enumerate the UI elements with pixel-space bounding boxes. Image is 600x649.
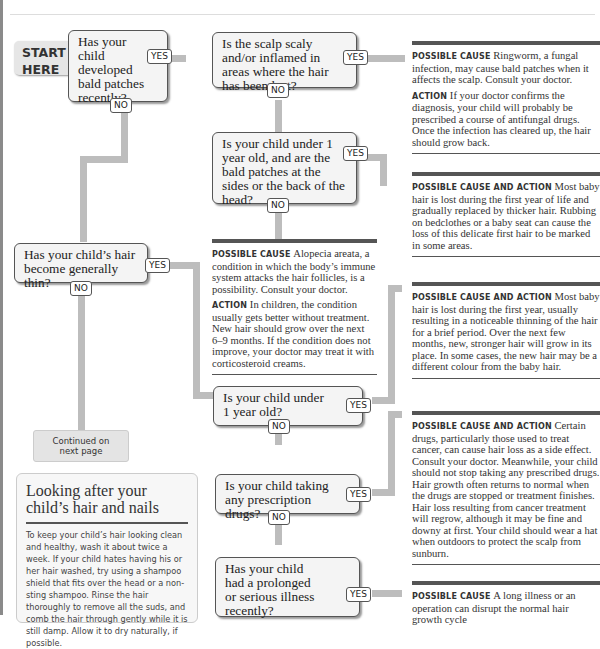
tip-rule	[26, 522, 188, 524]
result-text: Most baby hair is lost during the first …	[412, 291, 600, 372]
result-top-bar	[412, 282, 600, 286]
result-text: Certain drugs, particularly those used t…	[412, 420, 599, 559]
connector	[193, 392, 213, 399]
result-bottom-rule	[412, 378, 600, 379]
result-heading: Possible cause and action	[412, 183, 552, 192]
yes-label[interactable]: YES	[343, 146, 368, 161]
continued-line2: next page	[34, 446, 128, 456]
connector	[193, 262, 200, 397]
result-top-bar	[212, 239, 377, 243]
question-generally-thin[interactable]: Has your child’s hair become generally t…	[14, 243, 148, 283]
yes-label[interactable]: YES	[147, 49, 172, 64]
connector	[388, 411, 402, 418]
connector	[80, 156, 128, 163]
tip-title: Looking after your child’s hair and nail…	[26, 482, 188, 516]
result-heading: Action	[212, 301, 247, 310]
yes-label[interactable]: YES	[343, 50, 368, 65]
result-heading: Possible cause and action	[412, 293, 552, 302]
tip-body: To keep your child’s hair looking clean …	[26, 529, 188, 649]
result-bottom-rule	[412, 256, 600, 257]
connector	[380, 154, 387, 186]
result-heading: Possible cause	[412, 592, 491, 601]
result-ringworm: Possible cause Ringworm, a fungal infect…	[412, 41, 600, 154]
question-prescription-drugs[interactable]: Is your child taking any prescription dr…	[215, 474, 360, 514]
question-text: Is your child under 1 year old, and are …	[222, 136, 345, 207]
connector	[275, 100, 282, 132]
result-top-bar	[412, 411, 600, 415]
connector	[388, 411, 395, 496]
question-bald-patches[interactable]: Has your child developed bald patches re…	[68, 30, 168, 102]
connector	[372, 590, 402, 597]
result-top-bar	[412, 172, 600, 176]
question-under-one-sides[interactable]: Is your child under 1 year old, and are …	[212, 132, 357, 204]
header-rule	[10, 14, 595, 15]
result-heading: Possible cause and action	[412, 422, 552, 431]
yes-label[interactable]: YES	[346, 398, 371, 413]
result-bottom-rule	[412, 153, 600, 154]
no-label[interactable]: NO	[268, 510, 290, 525]
no-label[interactable]: NO	[267, 198, 289, 213]
question-text: Is your child under 1 year old?	[223, 390, 324, 419]
yes-label[interactable]: YES	[346, 487, 371, 502]
no-label[interactable]: NO	[268, 419, 290, 434]
no-label[interactable]: NO	[267, 83, 289, 98]
start-label: START	[22, 44, 70, 61]
result-baby-thinning: Possible cause and action Most baby hair…	[412, 282, 600, 379]
result-baby-rubbing: Possible cause and action Most baby hair…	[412, 172, 600, 257]
result-heading: Possible cause	[412, 52, 491, 61]
connector	[78, 282, 85, 432]
question-text: Has your child developed bald patches re…	[78, 34, 144, 105]
result-alopecia: Possible cause Alopecia areata, a condit…	[212, 239, 377, 375]
yes-label[interactable]: YES	[346, 587, 371, 602]
here-label: HERE	[22, 61, 70, 78]
no-label[interactable]: NO	[110, 98, 132, 113]
result-bottom-rule	[212, 374, 377, 375]
result-top-bar	[412, 41, 600, 45]
question-scaly-scalp[interactable]: Is the scalp scaly and/or inflamed in ar…	[212, 32, 357, 88]
result-drugs: Possible cause and action Certain drugs,…	[412, 411, 600, 565]
continued-line1: Continued on	[34, 436, 128, 446]
continued-next-page-button[interactable]: Continued on next page	[33, 430, 129, 462]
connector	[388, 285, 395, 404]
page-edge	[0, 0, 3, 615]
result-heading: Possible cause	[212, 250, 291, 259]
result-illness: Possible cause A long illness or an oper…	[412, 581, 600, 630]
yes-label[interactable]: YES	[145, 258, 170, 273]
no-label[interactable]: NO	[70, 281, 92, 296]
connector	[388, 285, 402, 292]
question-serious-illness[interactable]: Has your child had a prolonged or seriou…	[215, 557, 360, 617]
result-top-bar	[412, 581, 600, 585]
connector	[80, 156, 87, 242]
result-heading: Action	[412, 92, 447, 101]
start-here-marker: START HERE	[14, 41, 70, 75]
question-text: Has your child had a prolonged or seriou…	[225, 561, 314, 618]
result-bottom-rule	[412, 564, 600, 565]
hair-care-tip-box: Looking after your child’s hair and nail…	[16, 473, 198, 623]
